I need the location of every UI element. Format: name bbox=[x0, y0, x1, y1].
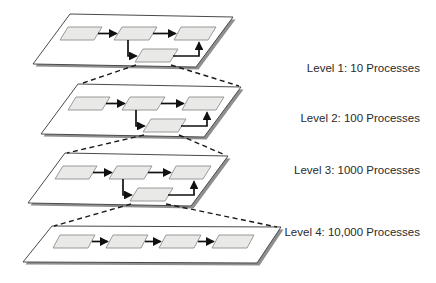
level-3-layer bbox=[28, 153, 231, 209]
diagram-canvas: Level 1: 10 Processes Level 2: 100 Proce… bbox=[0, 0, 436, 283]
level-1-layer bbox=[33, 14, 236, 70]
level-3-label: Level 3: 1000 Processes bbox=[294, 164, 420, 176]
process-box-4 bbox=[212, 235, 254, 248]
process-box-1 bbox=[53, 235, 95, 248]
level-2-layer bbox=[41, 84, 244, 140]
level-4-layer bbox=[23, 226, 284, 266]
connector-l2-l3-left bbox=[67, 135, 144, 153]
level-labels: Level 1: 10 Processes Level 2: 100 Proce… bbox=[284, 62, 420, 238]
connector-l3-l4-left bbox=[54, 204, 131, 226]
connector-l1-l2-left bbox=[80, 65, 136, 84]
level-1-label: Level 1: 10 Processes bbox=[307, 62, 420, 74]
process-box-2 bbox=[106, 235, 148, 248]
level-4-label: Level 4: 10,000 Processes bbox=[284, 226, 420, 238]
level-2-label: Level 2: 100 Processes bbox=[300, 112, 420, 124]
process-box-3 bbox=[159, 235, 201, 248]
connector-l3-l4-right bbox=[166, 204, 277, 227]
process-hierarchy-diagram: Level 1: 10 Processes Level 2: 100 Proce… bbox=[0, 0, 436, 283]
connector-l1-l2-right bbox=[171, 65, 239, 86]
